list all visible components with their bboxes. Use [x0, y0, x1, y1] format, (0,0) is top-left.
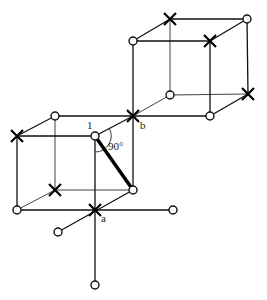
angle-label: 90°	[108, 140, 123, 152]
site-a-label: a	[101, 212, 106, 224]
lattice-diagram: 1 b a 90°	[0, 0, 267, 300]
lattice-edges	[17, 19, 248, 285]
site-b-label: b	[140, 119, 146, 131]
lattice-svg: 1 b a 90°	[0, 0, 267, 300]
site-1-label: 1	[87, 119, 93, 131]
circle-nodes	[13, 15, 251, 289]
